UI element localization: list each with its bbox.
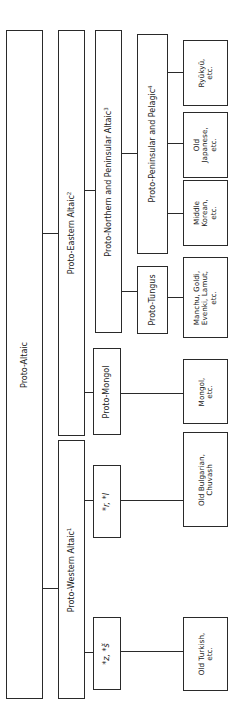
- edge-altaic-eastern: [42, 233, 59, 234]
- edge-pelagic-ryukyu: [167, 72, 184, 73]
- node-old-japanese: OldJapanese,etc.: [183, 112, 228, 178]
- node-old-turkish: Old Turkish,etc.: [183, 617, 228, 691]
- label-z-s: *z, *š: [102, 643, 111, 664]
- edge-pelagic-middlekorean: [167, 213, 184, 214]
- node-proto-northern-peninsular: Proto-Northern and Peninsular Altaic3: [95, 30, 122, 333]
- node-proto-peninsular-pelagic: Proto-Peninsular and Pelagic4: [137, 34, 168, 254]
- edge-northpen-pelagic: [121, 153, 138, 154]
- node-manchu: Manchu, Goldi,Evenki, Lamut,etc.: [183, 257, 228, 338]
- label-old-japanese: OldJapanese,etc.: [193, 127, 218, 162]
- edge-zs-oldturkish: [120, 651, 184, 652]
- node-z-s: *z, *š: [93, 617, 121, 690]
- node-proto-eastern-altaic: Proto-Eastern Altaic2: [58, 30, 85, 436]
- label-proto-tungus: Proto-Tungus: [148, 274, 157, 325]
- label-mongol: Mongol,etc.: [197, 377, 214, 406]
- edge-northpen-tungus: [121, 291, 138, 292]
- edge-rl-oldbulgarian: [120, 500, 184, 501]
- label-old-turkish: Old Turkish,etc.: [197, 633, 214, 676]
- node-middle-korean: MiddleKorean,etc.: [183, 180, 228, 246]
- node-r-l: *r, *l: [93, 465, 121, 538]
- node-proto-altaic: Proto-Altaic: [6, 30, 43, 699]
- node-old-bulgarian: Old Bulgarian,Chuvash: [183, 432, 228, 527]
- edge-altaic-western: [42, 588, 59, 589]
- label-proto-altaic: Proto-Altaic: [20, 342, 29, 388]
- label-proto-peninsular-pelagic: Proto-Peninsular and Pelagic4: [148, 85, 157, 202]
- node-mongol: Mongol,etc.: [183, 359, 228, 424]
- label-ryukyu: Ryūkyū,etc.: [197, 59, 214, 88]
- label-manchu: Manchu, Goldi,Evenki, Lamut,etc.: [193, 270, 218, 324]
- label-proto-western-altaic: Proto-Western Altaic1: [67, 527, 76, 612]
- label-old-bulgarian: Old Bulgarian,Chuvash: [197, 454, 214, 506]
- node-proto-western-altaic: Proto-Western Altaic1: [58, 440, 85, 699]
- label-middle-korean: MiddleKorean,etc.: [193, 199, 218, 227]
- node-ryukyu: Ryūkyū,etc.: [183, 40, 228, 106]
- label-proto-mongol: Proto-Mongol: [102, 365, 111, 418]
- label-r-l: *r, *l: [102, 493, 111, 511]
- node-proto-mongol: Proto-Mongol: [93, 348, 121, 435]
- label-proto-northern-peninsular: Proto-Northern and Peninsular Altaic3: [104, 107, 113, 256]
- label-proto-eastern-altaic: Proto-Eastern Altaic2: [67, 192, 76, 275]
- node-proto-tungus: Proto-Tungus: [137, 266, 168, 334]
- edge-tungus-manchu: [167, 297, 184, 298]
- edge-mongol-mongol: [120, 393, 184, 394]
- edge-pelagic-oldjapanese: [167, 143, 184, 144]
